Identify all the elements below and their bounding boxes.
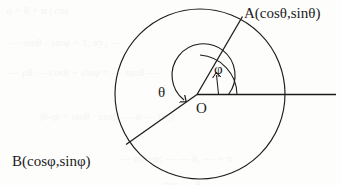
angle-theta-label: θ (158, 85, 165, 100)
figure-canvas: φ = θ + α | cos — sinθ · sinφ = 1, αy₀ —… (0, 0, 341, 185)
origin-label: O (196, 101, 207, 116)
angle-phi-pointer (217, 75, 219, 94)
angle-arc-theta (172, 44, 235, 100)
angle-phi-label: φ (214, 62, 223, 77)
point-b-label: B(cosφ,sinφ) (12, 154, 91, 169)
point-a-label: A(cosθ,sinθ) (244, 6, 320, 21)
ray-ob (126, 95, 197, 145)
